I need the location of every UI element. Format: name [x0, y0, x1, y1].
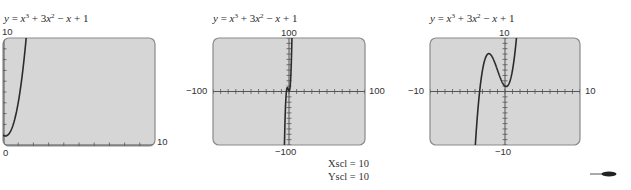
- graph-canvas: [0, 0, 631, 190]
- graph-3-window: [430, 18, 580, 166]
- graph-1-window: [2, 18, 156, 148]
- graph-2-window: [213, 20, 365, 160]
- stylus-pointer-icon: [590, 171, 617, 176]
